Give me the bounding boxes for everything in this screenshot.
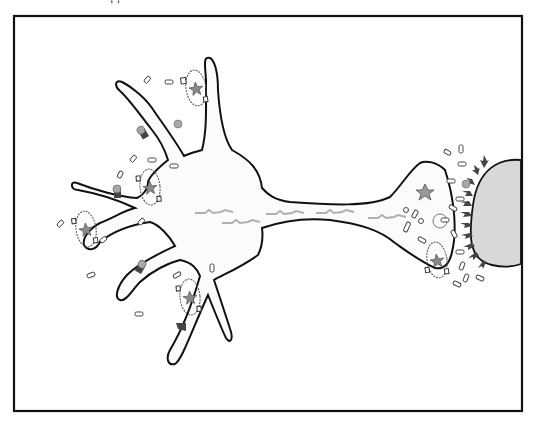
neuron-diagram	[0, 0, 535, 424]
free-molecule-icon	[174, 120, 182, 128]
free-molecule-icon	[462, 180, 470, 188]
receptor-peg-icon	[113, 185, 121, 198]
